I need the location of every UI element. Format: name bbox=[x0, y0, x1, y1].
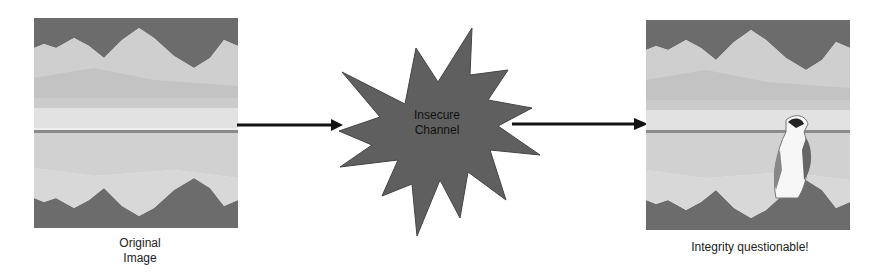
received-image bbox=[646, 20, 850, 230]
original-image bbox=[34, 18, 238, 228]
received-image-caption: Integrity questionable! bbox=[670, 240, 830, 255]
arrow-to-received-image bbox=[512, 117, 648, 131]
channel-label-line-1: Insecure bbox=[395, 108, 479, 123]
caption-line-2: Image bbox=[100, 251, 180, 266]
arrow-to-channel bbox=[237, 118, 343, 132]
caption-line-1: Original bbox=[100, 236, 180, 251]
original-image-caption: Original Image bbox=[100, 236, 180, 266]
channel-label-line-2: Channel bbox=[395, 123, 479, 138]
channel-label: Insecure Channel bbox=[395, 108, 479, 138]
